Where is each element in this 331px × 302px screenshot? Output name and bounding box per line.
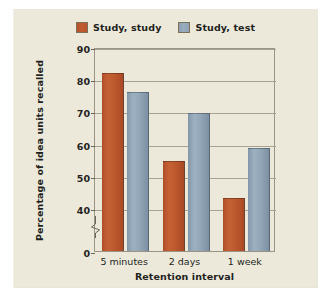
bar-top-edge: [102, 73, 123, 74]
bar-study-0: [102, 73, 124, 251]
bar-top-edge: [127, 92, 148, 93]
gridline: [95, 49, 276, 50]
chart-legend: Study, study Study, test: [13, 22, 318, 33]
bar-top-edge: [163, 161, 184, 162]
x-axis-tick-labels: 5 minutes2 days1 week: [94, 256, 275, 270]
bar-top-edge: [248, 148, 269, 149]
bar-test-2: [248, 148, 270, 251]
legend-label-study-test: Study, test: [195, 22, 255, 33]
plot-area: 9080706050400: [94, 48, 275, 252]
figure-panel: Study, study Study, test Percentage of i…: [13, 9, 318, 288]
y-tick-label: 60: [77, 140, 90, 151]
legend-label-study-study: Study, study: [93, 22, 161, 33]
y-tick-label: 80: [77, 76, 90, 87]
x-axis-title: Retention interval: [94, 271, 275, 282]
legend-item-study-study: Study, study: [76, 22, 161, 33]
y-tick-label: 70: [77, 108, 90, 119]
bar-test-1: [188, 113, 210, 251]
bar-top-edge: [223, 198, 244, 199]
y-axis-title-text: Percentage of idea units recalled: [35, 59, 46, 240]
y-axis-title: Percentage of idea units recalled: [33, 48, 47, 252]
y-tick-mark: [91, 210, 95, 211]
legend-item-study-test: Study, test: [178, 22, 255, 33]
x-tick-label: 5 minutes: [100, 256, 148, 267]
bar-top-edge: [188, 113, 209, 114]
bar-test-0: [127, 92, 149, 251]
y-tick-mark: [91, 49, 95, 50]
y-tick-label: 90: [77, 44, 90, 55]
orange-swatch-icon: [76, 22, 88, 33]
y-tick-mark: [91, 81, 95, 82]
y-tick-label: 40: [77, 205, 90, 216]
x-tick-label: 2 days: [169, 256, 201, 267]
y-tick-label: 50: [77, 172, 90, 183]
bar-study-1: [163, 161, 185, 251]
y-tick-mark: [91, 113, 95, 114]
blue-swatch-icon: [178, 22, 190, 33]
bar-study-2: [223, 198, 245, 251]
axis-break-icon: [90, 216, 101, 238]
y-tick-mark: [91, 178, 95, 179]
y-tick-mark: [91, 253, 95, 254]
y-tick-mark: [91, 146, 95, 147]
y-tick-label: 0: [83, 248, 90, 259]
x-tick-label: 1 week: [228, 256, 262, 267]
